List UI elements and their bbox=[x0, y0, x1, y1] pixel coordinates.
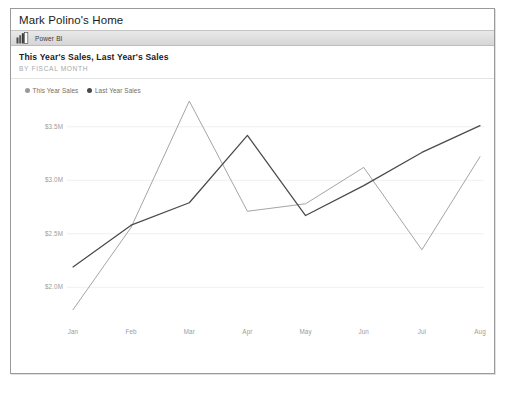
powerbi-branding-bar[interactable]: Power BI bbox=[11, 30, 494, 46]
x-axis-tick-label: Mar bbox=[184, 328, 195, 335]
legend-item-last-year-sales[interactable]: Last Year Sales bbox=[87, 87, 140, 94]
x-axis-tick-label: Aug bbox=[474, 328, 486, 335]
chart-gridlines bbox=[67, 127, 484, 288]
y-axis-tick-label: $3.5M bbox=[21, 123, 63, 130]
line-chart-svg bbox=[11, 94, 494, 356]
chart-legend: This Year Sales Last Year Sales bbox=[11, 79, 494, 94]
chart-series-layer bbox=[73, 101, 480, 310]
visual-header: This Year's Sales, Last Year's Sales BY … bbox=[11, 46, 494, 79]
powerbi-bars-icon bbox=[16, 32, 29, 44]
window-title: Mark Polino's Home bbox=[11, 9, 494, 30]
x-axis-tick-label: Jan bbox=[68, 328, 78, 335]
powerbi-label: Power BI bbox=[35, 35, 63, 42]
x-axis-tick-label: May bbox=[299, 328, 311, 335]
chart-plot-area[interactable]: $2.0M$2.5M$3.0M$3.5M JanFebMarAprMayJunJ… bbox=[11, 94, 494, 356]
x-axis-tick-label: Apr bbox=[242, 328, 252, 335]
y-axis-tick-label: $2.0M bbox=[21, 283, 63, 290]
page-title: This Year's Sales, Last Year's Sales bbox=[19, 52, 494, 63]
series-line-this-year-sales[interactable] bbox=[73, 101, 480, 310]
legend-dot-icon-last-year bbox=[87, 88, 92, 93]
legend-item-this-year-sales[interactable]: This Year Sales bbox=[25, 87, 78, 94]
page-subtitle: BY FISCAL MONTH bbox=[19, 64, 494, 74]
x-axis-tick-label: Jun bbox=[358, 328, 368, 335]
legend-dot-icon-this-year bbox=[25, 88, 30, 93]
x-axis-tick-label: Jul bbox=[418, 328, 426, 335]
powerbi-report-window: Mark Polino's Home Power BI This Year's … bbox=[10, 8, 495, 374]
x-axis-tick-label: Feb bbox=[126, 328, 137, 335]
y-axis-tick-label: $2.5M bbox=[21, 230, 63, 237]
legend-label-last-year: Last Year Sales bbox=[95, 87, 141, 94]
legend-label-this-year: This Year Sales bbox=[33, 87, 79, 94]
y-axis-tick-label: $3.0M bbox=[21, 176, 63, 183]
